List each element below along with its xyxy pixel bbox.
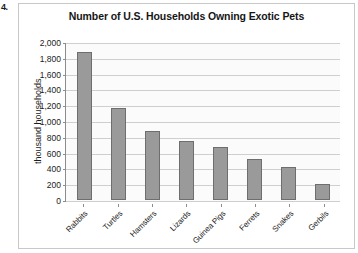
plot-area: 2,0001,8001,6001,4001,2001,0008006004002…	[65, 43, 340, 202]
x-axis-label-turtles: Turtles	[101, 209, 124, 232]
bar-snakes[interactable]	[281, 167, 296, 200]
bar-slot	[169, 43, 203, 200]
y-axis-tick	[63, 169, 66, 170]
y-axis-tick-label: 400	[47, 164, 61, 174]
y-axis-tick-label: 1,400	[40, 85, 61, 95]
x-axis-tick	[324, 204, 325, 207]
x-axis-slot: Snakes	[272, 204, 306, 252]
x-axis-slot: Ferrets	[238, 204, 272, 252]
y-axis-tick	[63, 59, 66, 60]
bar-slot	[101, 43, 135, 200]
x-axis-tick	[186, 204, 187, 207]
y-axis-tick	[63, 185, 66, 186]
bar-turtles[interactable]	[111, 108, 126, 200]
bar-slot	[272, 43, 306, 200]
y-axis-tick-label: 2,000	[40, 38, 61, 48]
bar-rabbits[interactable]	[77, 52, 92, 200]
y-axis-tick-label: 1,000	[40, 117, 61, 127]
bar-slot	[204, 43, 238, 200]
y-axis-tick	[63, 75, 66, 76]
y-axis-tick	[63, 90, 66, 91]
x-axis-tick	[255, 204, 256, 207]
x-axis-labels-group: RabbitsTurtlesHamstersLizardsGuinea Pigs…	[66, 204, 341, 252]
y-axis-tick	[63, 122, 66, 123]
bar-slot	[67, 43, 101, 200]
x-axis-slot: Lizards	[169, 204, 203, 252]
bars-group	[67, 43, 340, 200]
x-axis-slot: Rabbits	[66, 204, 100, 252]
x-axis-label-lizards: Lizards	[169, 209, 193, 233]
y-axis-tick-label: 0	[56, 196, 61, 206]
y-axis-tick	[63, 154, 66, 155]
x-axis-label-snakes: Snakes	[271, 209, 296, 234]
y-axis-tick-label: 1,200	[40, 101, 61, 111]
x-axis-tick	[118, 204, 119, 207]
y-axis-tick-label: 200	[47, 180, 61, 190]
plot-wrapper: 2,0001,8001,6001,4001,2001,0008006004002…	[65, 41, 340, 202]
page-item-marker: 4.	[1, 2, 8, 12]
chart-container: Number of U.S. Households Owning Exotic …	[18, 3, 355, 249]
y-axis-tick-label: 800	[47, 133, 61, 143]
bar-slot	[238, 43, 272, 200]
y-axis-tick-label: 1,800	[40, 54, 61, 64]
y-axis-tick-label: 1,600	[40, 70, 61, 80]
x-axis-slot: Gerbils	[307, 204, 341, 252]
bar-lizards[interactable]	[179, 141, 194, 200]
x-axis-tick	[83, 204, 84, 207]
x-axis-label-rabbits: Rabbits	[64, 209, 89, 234]
y-axis-tick	[63, 43, 66, 44]
x-axis-slot: Turtles	[100, 204, 134, 252]
bar-gerbils[interactable]	[315, 184, 330, 200]
x-axis-slot: Guinea Pigs	[204, 204, 238, 252]
chart-title: Number of U.S. Households Owning Exotic …	[19, 10, 354, 22]
bar-hamsters[interactable]	[145, 131, 160, 200]
bar-slot	[306, 43, 340, 200]
bar-slot	[135, 43, 169, 200]
x-axis-tick	[221, 204, 222, 207]
x-axis-tick	[289, 204, 290, 207]
x-axis-tick	[152, 204, 153, 207]
bar-guinea-pigs[interactable]	[213, 147, 228, 200]
x-axis-slot: Hamsters	[135, 204, 169, 252]
y-axis-tick	[63, 106, 66, 107]
y-axis-tick-label: 600	[47, 149, 61, 159]
x-axis-label-gerbils: Gerbils	[306, 209, 330, 233]
x-axis-label-ferrets: Ferrets	[238, 209, 262, 233]
y-axis-tick	[63, 138, 66, 139]
bar-ferrets[interactable]	[247, 159, 262, 200]
y-axis-tick	[63, 201, 66, 202]
gridline	[66, 201, 340, 202]
